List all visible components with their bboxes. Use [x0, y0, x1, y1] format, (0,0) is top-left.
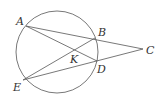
segment-AC [26, 26, 143, 49]
label-B: B [97, 26, 106, 39]
label-K: K [69, 53, 79, 66]
circle [16, 11, 98, 93]
label-A: A [15, 15, 24, 28]
segment-EC [23, 49, 143, 80]
label-C: C [146, 44, 155, 57]
segment-EB [23, 38, 95, 80]
label-E: E [12, 81, 21, 94]
geometry-diagram: A B C D E K [0, 0, 165, 101]
label-D: D [96, 63, 106, 76]
